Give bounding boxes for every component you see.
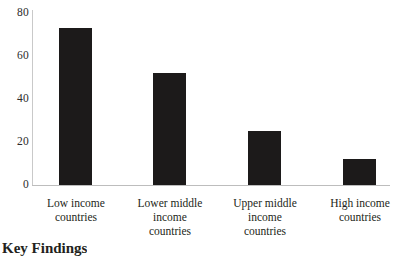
x-label-lower-middle-income-countries: Lower middle income countries <box>118 196 222 239</box>
bar-lower-middle-income-countries <box>153 73 186 185</box>
page-heading: Key Findings <box>2 241 87 257</box>
y-tick-label-40: 40 <box>3 93 29 105</box>
x-label-high-income-countries: High income countries <box>308 196 401 224</box>
bar-chart-figure: 80 60 40 20 0 Low income countries Lower… <box>0 0 401 257</box>
bar-high-income-countries <box>343 159 376 185</box>
y-tick-label-80: 80 <box>3 7 29 19</box>
bar-low-income-countries <box>59 28 92 185</box>
y-tick-label-60: 60 <box>3 50 29 62</box>
x-label-upper-middle-income-countries: Upper middle income countries <box>213 196 317 239</box>
y-tick-label-20: 20 <box>3 136 29 148</box>
x-axis-line <box>32 185 390 186</box>
bar-upper-middle-income-countries <box>248 131 281 185</box>
x-label-low-income-countries: Low income countries <box>24 196 128 224</box>
y-tick-label-0: 0 <box>3 179 29 191</box>
y-axis-line <box>32 10 33 186</box>
